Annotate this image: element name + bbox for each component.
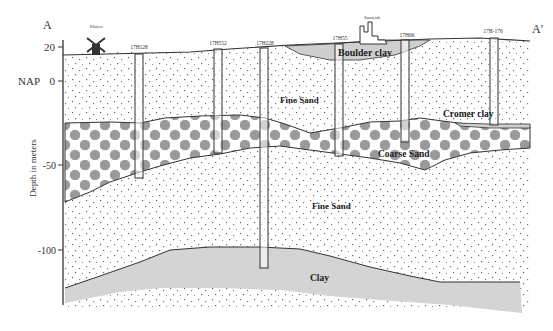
tick-label: -100 <box>38 245 56 256</box>
landmark-label: Sassenh <box>364 15 381 20</box>
geological-cross-section: 17H128 17H552 17H228 17H55 17H66 17H-176… <box>0 0 553 331</box>
tick-label: 0 <box>50 75 56 87</box>
axis-title: Depth in meters <box>28 139 38 197</box>
borehole-label: 17H-176 <box>483 28 503 34</box>
axis-ticks: 20 0 -50 -100 <box>38 41 63 256</box>
layer-label-coarse-sand: Coarse Sand <box>378 149 430 159</box>
tick-label: -50 <box>43 160 56 171</box>
layer-label-fine-sand-upper: Fine Sand <box>280 95 319 105</box>
landmark-label: Sloten <box>90 24 103 29</box>
borehole-label: 17H552 <box>209 40 227 46</box>
layer-label-boulder-clay: Boulder clay <box>338 47 392 58</box>
end-marker: A' <box>532 22 543 36</box>
tick-label: 20 <box>44 41 56 53</box>
start-marker: A <box>43 18 52 32</box>
town-icon: Sassenh <box>360 15 387 44</box>
layer-label-fine-sand-lower: Fine Sand <box>312 201 351 211</box>
layer-label-clay: Clay <box>310 273 329 283</box>
layer-label-cromer-clay: Cromer clay <box>443 109 494 119</box>
borehole-label: 17H55 <box>333 35 348 41</box>
borehole-label: 17H228 <box>256 40 274 46</box>
windmill-icon: Sloten <box>87 24 105 55</box>
borehole-label: 17H66 <box>400 32 415 38</box>
datum-label: NAP <box>18 75 40 87</box>
borehole-label: 17H128 <box>130 44 148 50</box>
